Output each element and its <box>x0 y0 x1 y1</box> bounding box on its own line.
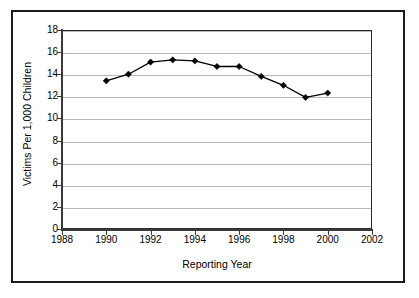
series-markers <box>103 57 331 101</box>
data-point-marker <box>236 63 242 69</box>
data-point-marker <box>280 82 286 88</box>
data-point-marker <box>125 71 131 77</box>
data-point-marker <box>214 63 220 69</box>
data-point-marker <box>302 94 308 100</box>
chart-figure: 024681012141618 198819901992199419961998… <box>0 0 419 298</box>
data-point-marker <box>325 90 331 96</box>
data-point-marker <box>192 58 198 64</box>
data-point-marker <box>103 78 109 84</box>
data-point-marker <box>170 57 176 63</box>
data-point-marker <box>147 59 153 65</box>
data-point-marker <box>258 73 264 79</box>
data-series-layer <box>0 0 419 298</box>
